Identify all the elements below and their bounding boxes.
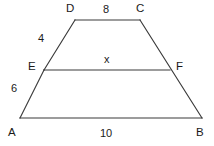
- vertex-label-B: B: [196, 127, 204, 139]
- segment-left-lower-side-EA: [20, 70, 44, 118]
- measure-label-length-DC: 8: [103, 4, 109, 15]
- vertex-label-D: D: [66, 3, 74, 15]
- geometry-figure: D C E F A B 8 4 6 10 x: [0, 0, 214, 146]
- measure-label-length-AB: 10: [100, 128, 112, 139]
- segment-right-side-BC: [140, 20, 202, 118]
- figure-canvas: [0, 0, 214, 146]
- measure-label-length-EA: 6: [11, 83, 17, 94]
- vertex-label-F: F: [176, 61, 183, 73]
- measure-label-length-EF: x: [104, 54, 110, 65]
- measure-label-length-DE: 4: [38, 33, 44, 44]
- vertex-label-E: E: [28, 61, 36, 73]
- vertex-label-C: C: [136, 3, 144, 15]
- segment-left-upper-side-DE: [44, 20, 75, 70]
- vertex-label-A: A: [8, 127, 16, 139]
